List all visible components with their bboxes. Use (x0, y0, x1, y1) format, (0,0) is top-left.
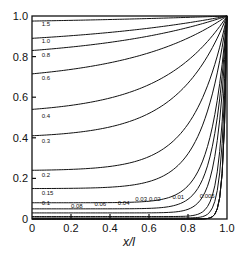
curve-1.5 (32, 16, 227, 21)
curve-label: 1.0 (42, 38, 51, 44)
x-tick-label: 0.8 (180, 222, 195, 234)
curve-label: 0.08 (71, 203, 83, 209)
y-tick-label: 0.6 (13, 91, 28, 103)
curve-label: 0.03 (135, 196, 147, 202)
curve-label: 0.04 (118, 200, 130, 206)
line-chart: 1.51.00.80.60.40.30.20.150.10.080.060.04… (0, 0, 240, 266)
curve-label: 0.005 (200, 193, 216, 199)
x-axis-label: x/l (122, 235, 135, 249)
chart-container: 1.51.00.80.60.40.30.20.150.10.080.060.04… (0, 0, 240, 266)
y-tick-label: 1.0 (13, 10, 28, 22)
curve-label: 1.5 (42, 21, 51, 27)
curve-label: 0.4 (42, 113, 51, 119)
curve-label: 0.1 (42, 200, 51, 206)
curve-label: 0.6 (42, 75, 51, 81)
curve-label: 0.02 (149, 196, 161, 202)
curve-label: 0.2 (42, 172, 51, 178)
x-tick-label: 0 (29, 222, 35, 234)
y-tick-label: 0.2 (13, 172, 28, 184)
curve-0.08 (32, 16, 227, 209)
curve-label: 0.15 (42, 190, 54, 196)
x-tick-label: 1.0 (219, 222, 234, 234)
x-tick-label: 0.2 (63, 222, 78, 234)
curve-family (32, 16, 227, 219)
x-tick-label: 0.4 (102, 222, 117, 234)
curve-0.06 (32, 16, 227, 213)
y-tick-label: 0.8 (13, 51, 28, 63)
curve-label: 0.06 (94, 201, 106, 207)
x-tick-label: 0.6 (141, 222, 156, 234)
y-tick-label: 0 (22, 213, 28, 225)
curve-0.3 (32, 16, 227, 136)
curve-label: 0.8 (42, 52, 51, 58)
curve-0.1 (32, 16, 227, 203)
curve-0.04 (32, 16, 227, 217)
curve-labels: 1.51.00.80.60.40.30.20.150.10.080.060.04… (42, 21, 216, 209)
curve-label: 0.01 (172, 194, 184, 200)
curve-label: 0.3 (42, 138, 51, 144)
y-tick-label: 0.4 (13, 132, 28, 144)
